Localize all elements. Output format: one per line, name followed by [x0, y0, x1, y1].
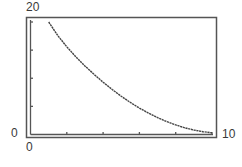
plot-frame — [27, 18, 217, 138]
decay-curve — [49, 22, 212, 133]
x-min-label: 0 — [26, 141, 33, 153]
axis-ticks — [31, 22, 213, 135]
decay-chart — [0, 0, 242, 167]
y-max-label: 20 — [26, 1, 39, 13]
y-min-label: 0 — [11, 127, 18, 139]
x-max-label: 10 — [222, 128, 235, 140]
